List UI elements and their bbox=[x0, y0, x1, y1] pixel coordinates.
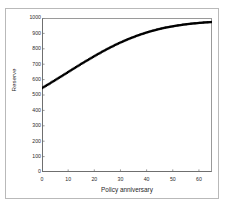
x-axis-tick-label: 60 bbox=[189, 176, 209, 182]
data-series bbox=[42, 21, 212, 89]
x-axis-tick-label: 30 bbox=[110, 176, 130, 182]
y-axis-tick-label: 200 bbox=[7, 139, 41, 144]
y-axis-tick-label: 300 bbox=[7, 123, 41, 128]
x-axis-tick-label: 40 bbox=[137, 176, 157, 182]
y-axis-tick-label: 800 bbox=[7, 46, 41, 51]
y-axis-tick-label: 900 bbox=[7, 31, 41, 36]
x-axis-tick-label: 50 bbox=[163, 176, 183, 182]
data-point bbox=[211, 21, 212, 23]
x-axis-tick-label: 10 bbox=[58, 176, 78, 182]
y-axis-tick-label: 0 bbox=[7, 169, 41, 174]
plot-canvas bbox=[42, 18, 212, 172]
x-axis-title: Policy anniversary bbox=[42, 186, 212, 194]
x-axis-tick-label: 20 bbox=[84, 176, 104, 182]
y-axis-tick-label: 400 bbox=[7, 108, 41, 113]
y-axis-title: Reserve bbox=[9, 58, 19, 102]
y-axis-tick-label: 100 bbox=[7, 154, 41, 159]
chart-figure: 10009008007006005004003002001000 0102030… bbox=[0, 0, 228, 207]
x-axis-tick-labels: 0102030405060 bbox=[0, 176, 228, 186]
y-axis-tick-label: 1000 bbox=[7, 15, 41, 20]
x-axis-tick-label: 0 bbox=[32, 176, 52, 182]
